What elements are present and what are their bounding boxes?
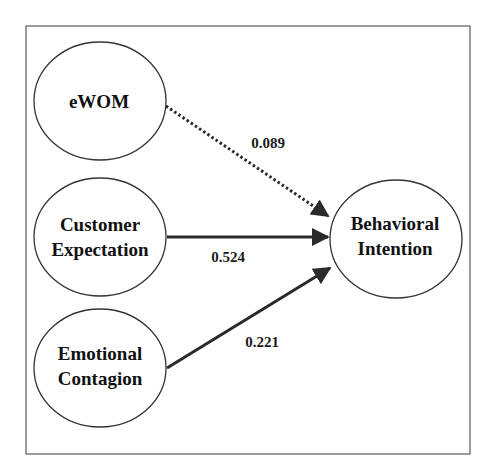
node-emotional-contagion: Emotional Contagion bbox=[34, 309, 166, 427]
node-customer-expectation: Customer Expectation bbox=[34, 178, 166, 296]
node-label: eWOM bbox=[69, 91, 129, 112]
node-behavioral-intention: Behavioral Intention bbox=[330, 180, 462, 298]
node-label-line1: Emotional bbox=[58, 343, 142, 364]
path-diagram: 0.089 0.524 0.221 eWOM Customer Expectat… bbox=[0, 0, 496, 476]
coefficient-label-customer-expectation: 0.524 bbox=[211, 249, 245, 265]
node-label-line2: Contagion bbox=[58, 368, 143, 389]
node-label-line2: Expectation bbox=[51, 239, 149, 260]
path-arrow-emotional-contagion bbox=[167, 268, 330, 368]
path-arrow-ewom bbox=[166, 106, 328, 216]
coefficient-label-emotional-contagion: 0.221 bbox=[245, 334, 279, 350]
node-ellipse bbox=[34, 178, 166, 296]
node-label-line1: Behavioral bbox=[351, 213, 440, 234]
coefficient-label-ewom: 0.089 bbox=[251, 135, 285, 151]
node-label-line1: Customer bbox=[60, 214, 141, 235]
node-ewom: eWOM bbox=[34, 42, 166, 160]
node-label-line2: Intention bbox=[358, 238, 433, 259]
